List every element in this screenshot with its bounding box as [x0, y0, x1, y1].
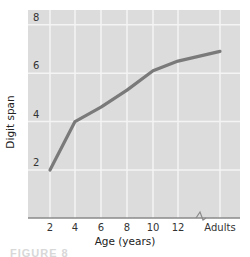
x-tick-labels: 24681012Adults: [47, 222, 236, 233]
x-tick-label: 6: [98, 222, 104, 233]
line-chart: 2468 24681012Adults Age (years) Digit sp…: [0, 0, 250, 257]
figure-caption: FIGURE 8: [10, 247, 69, 257]
x-axis-label: Age (years): [95, 235, 156, 247]
x-tick-label: 2: [47, 222, 53, 233]
y-tick-label: 4: [33, 109, 39, 120]
y-tick-label: 6: [33, 60, 39, 71]
x-tick-label: 12: [172, 222, 185, 233]
x-tick-label: 4: [72, 222, 78, 233]
plot-background: [28, 10, 240, 218]
x-tick-label: 10: [147, 222, 160, 233]
y-axis-label: Digit span: [4, 95, 16, 148]
x-tick-label: 8: [124, 222, 130, 233]
x-tick-label: Adults: [204, 222, 235, 233]
y-tick-label: 8: [33, 12, 39, 23]
y-tick-label: 2: [33, 157, 39, 168]
